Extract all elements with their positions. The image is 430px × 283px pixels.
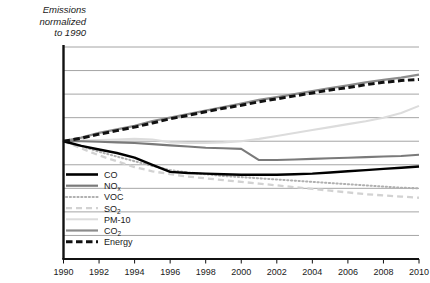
series-line-nox — [64, 141, 420, 160]
emissions-line-chart: 1990199219941996199820002002200420062008… — [0, 0, 430, 283]
x-axis-tick-label: 1998 — [196, 267, 216, 277]
x-axis-tick-label: 1990 — [53, 267, 73, 277]
x-axis-tick-label: 2006 — [338, 267, 358, 277]
legend-label-nox: NOx — [104, 181, 122, 192]
legend-label-pm-10: PM-10 — [104, 215, 131, 225]
x-axis-tick-label: 2010 — [409, 267, 429, 277]
legend-label-co2: CO2 — [104, 226, 122, 237]
legend-label-so2: SO2 — [104, 204, 121, 215]
legend-label-voc: VOC — [104, 192, 124, 202]
legend-label-energy: Energy — [104, 237, 133, 247]
legend-label-co: CO — [104, 170, 118, 180]
series-line-pm-10 — [64, 106, 420, 143]
x-axis-tick-label: 2002 — [267, 267, 287, 277]
x-axis-tick-label: 1996 — [160, 267, 180, 277]
x-axis-tick-label: 1994 — [125, 267, 145, 277]
x-axis-tick-label: 2004 — [302, 267, 322, 277]
x-axis-tick-label: 2000 — [231, 267, 251, 277]
x-axis-tick-label: 2008 — [373, 267, 393, 277]
series-line-energy — [64, 79, 420, 141]
x-axis-ticks-group: 1990199219941996199820002002200420062008… — [53, 259, 429, 277]
x-axis-tick-label: 1992 — [89, 267, 109, 277]
chart-container: 1990199219941996199820002002200420062008… — [0, 0, 430, 283]
